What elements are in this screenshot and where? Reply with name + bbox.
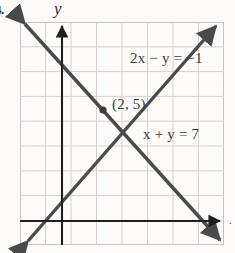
problem-number: 4. (0, 2, 4, 18)
graph-figure: 4. y (0, 0, 235, 253)
y-axis-label: y (54, 0, 62, 19)
trailing-punctuation: . (229, 214, 232, 226)
intersection-point-marker (99, 106, 106, 113)
intersection-point-label: (2, 5) (112, 96, 146, 113)
equation-label-rising: 2x − y = −1 (130, 50, 203, 67)
equation-label-falling: x + y = 7 (143, 126, 199, 143)
